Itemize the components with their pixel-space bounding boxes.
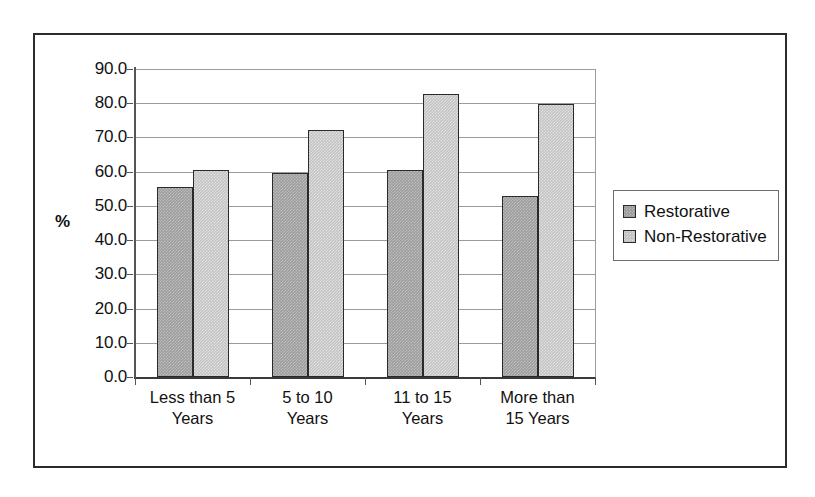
y-axis-tick-label: 70.0 xyxy=(61,128,127,145)
x-axis-category-label-line: Years xyxy=(250,408,365,429)
y-axis-tick-label: 60.0 xyxy=(61,163,127,180)
y-axis-tick-label: 0.0 xyxy=(61,368,127,385)
x-axis-tick xyxy=(135,377,136,385)
legend-swatch-icon xyxy=(623,230,636,243)
y-axis-tick-label: 20.0 xyxy=(61,300,127,317)
bar-non-restorative-3 xyxy=(423,94,459,377)
y-axis-tick-mark xyxy=(127,377,133,378)
legend-item-non-restorative: Non-Restorative xyxy=(623,227,767,246)
x-axis-category-label: 11 to 15Years xyxy=(365,387,480,429)
y-axis-tick-label: 90.0 xyxy=(61,60,127,77)
y-axis-tick-mark xyxy=(127,103,133,104)
x-axis-category-label: Less than 5Years xyxy=(135,387,250,429)
chart-legend: RestorativeNon-Restorative xyxy=(613,190,779,261)
y-axis-tick-mark xyxy=(127,309,133,310)
x-axis-category-label-line: Less than 5 xyxy=(135,387,250,408)
x-axis-category-label-line: Years xyxy=(365,408,480,429)
y-axis-tick-label: 40.0 xyxy=(61,231,127,248)
plot-right-edge xyxy=(595,69,596,377)
y-axis-tick-mark xyxy=(127,343,133,344)
legend-item-restorative: Restorative xyxy=(623,202,767,221)
y-axis-tick-mark xyxy=(127,69,133,70)
x-axis-category-label-line: More than xyxy=(480,387,595,408)
x-axis-tick xyxy=(250,377,251,385)
bar-restorative-1 xyxy=(157,187,193,377)
chart-frame: % 90.080.070.060.050.040.030.020.010.00.… xyxy=(33,33,787,468)
x-axis-category-label-line: Years xyxy=(135,408,250,429)
y-axis-tick-labels: 90.080.070.060.050.040.030.020.010.00.0 xyxy=(57,69,127,377)
y-axis-tick-mark xyxy=(127,172,133,173)
bar-restorative-4 xyxy=(502,196,538,377)
x-axis-category-label: More than15 Years xyxy=(480,387,595,429)
gridline xyxy=(135,137,595,138)
bar-non-restorative-2 xyxy=(308,130,344,377)
x-axis-tick xyxy=(595,377,596,385)
x-axis-tick xyxy=(365,377,366,385)
y-axis-tick-mark xyxy=(127,240,133,241)
gridline xyxy=(135,103,595,104)
legend-label: Restorative xyxy=(644,202,730,221)
gridline xyxy=(135,69,595,70)
y-axis-line xyxy=(134,67,136,379)
x-axis-category-label: 5 to 10Years xyxy=(250,387,365,429)
y-axis-tick-label: 80.0 xyxy=(61,94,127,111)
x-axis-category-label-line: 5 to 10 xyxy=(250,387,365,408)
bar-non-restorative-1 xyxy=(193,170,229,377)
x-axis-category-label-line: 15 Years xyxy=(480,408,595,429)
y-axis-tick-label: 50.0 xyxy=(61,197,127,214)
plot-area: Less than 5Years5 to 10Years11 to 15Year… xyxy=(135,69,595,377)
y-axis-tick-mark xyxy=(127,274,133,275)
legend-swatch-icon xyxy=(623,205,636,218)
bar-restorative-3 xyxy=(387,170,423,377)
bar-non-restorative-4 xyxy=(538,104,574,377)
legend-label: Non-Restorative xyxy=(644,227,767,246)
y-axis-tick-label: 30.0 xyxy=(61,265,127,282)
x-axis-category-label-line: 11 to 15 xyxy=(365,387,480,408)
y-axis-tick-mark xyxy=(127,137,133,138)
bar-restorative-2 xyxy=(272,173,308,377)
y-axis-tick-mark xyxy=(127,206,133,207)
y-axis-tick-label: 10.0 xyxy=(61,334,127,351)
x-axis-tick xyxy=(480,377,481,385)
